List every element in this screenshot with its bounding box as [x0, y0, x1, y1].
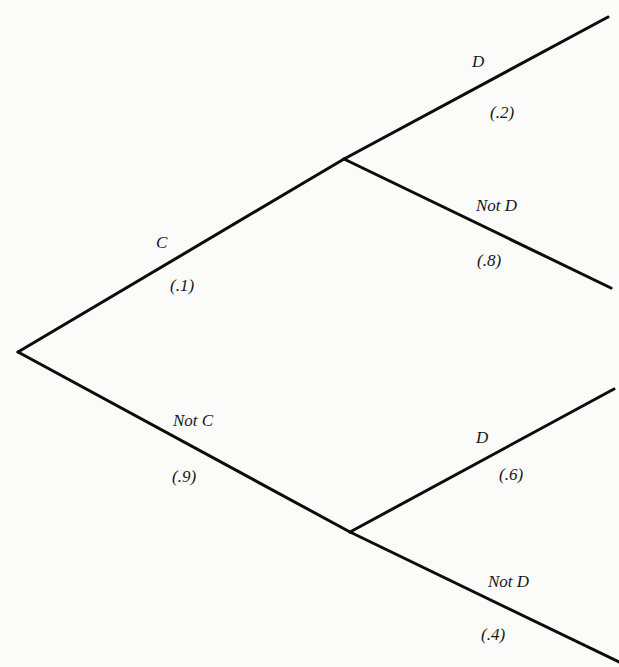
label-prob-not-c: (.9)	[172, 468, 196, 485]
label-event-c-not-d: Not D	[476, 197, 517, 214]
label-event-not-c-not-d: Not D	[488, 573, 529, 590]
label-event-c-d: D	[472, 53, 484, 70]
label-event-not-c-d: D	[476, 429, 488, 446]
branch-not-c-d	[350, 389, 614, 532]
label-prob-not-c-d: (.6)	[499, 466, 523, 483]
tree-canvas	[0, 0, 619, 667]
branch-not-c	[18, 352, 350, 532]
branch-c-d	[344, 17, 608, 159]
branch-c	[18, 159, 344, 352]
label-prob-c-d: (.2)	[490, 104, 514, 121]
label-prob-c: (.1)	[170, 277, 194, 294]
label-prob-not-c-not-d: (.4)	[481, 626, 505, 643]
label-prob-c-not-d: (.8)	[477, 252, 501, 269]
label-event-not-c: Not C	[173, 412, 213, 429]
label-event-c: C	[156, 234, 167, 251]
